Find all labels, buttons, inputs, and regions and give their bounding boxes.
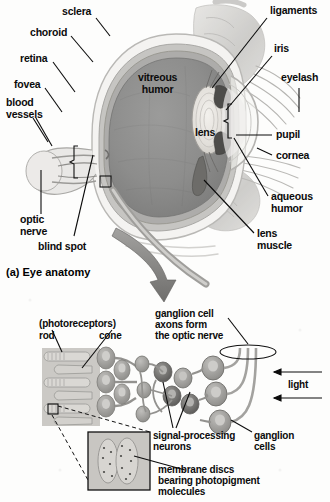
signal-processing-neuron bbox=[181, 394, 199, 414]
signal-processing-neuron bbox=[136, 406, 150, 422]
label-ganglion-axons: ganglion cell axons form the optic nerve bbox=[155, 308, 223, 341]
label-aqueous-humor: aqueous humor bbox=[271, 191, 313, 214]
leader-choroid bbox=[71, 36, 93, 62]
leader-retina bbox=[53, 62, 75, 92]
signal-processing-neuron bbox=[135, 356, 149, 372]
leader-cornea bbox=[257, 148, 272, 155]
ganglion-cell bbox=[202, 356, 224, 380]
rod-cell bbox=[44, 378, 90, 387]
label-ganglion-cells: ganglion cells bbox=[254, 430, 294, 452]
label-signal-processing: signal-processing neurons bbox=[153, 430, 235, 452]
leader-fovea bbox=[45, 88, 62, 112]
ganglion-cell bbox=[205, 382, 227, 406]
signal-processing-neuron bbox=[174, 368, 192, 388]
bipolar-cells-group bbox=[97, 347, 137, 417]
label-photoreceptors: (photoreceptors) bbox=[39, 318, 116, 329]
caption-eye-anatomy: (a) Eye anatomy bbox=[6, 266, 90, 278]
label-fovea: fovea bbox=[14, 79, 40, 91]
label-membrane-discs: membrane discs bearing photopigment mole… bbox=[158, 464, 260, 497]
label-blood-vessels: blood vessels bbox=[6, 97, 43, 120]
label-blind-spot: blind spot bbox=[38, 241, 86, 253]
label-vitreous-humor: vitreous humor bbox=[138, 72, 177, 95]
bipolar-cell bbox=[114, 360, 130, 380]
label-eyelash: eyelash bbox=[281, 72, 318, 84]
cone-cell bbox=[54, 417, 92, 425]
label-rod: rod bbox=[39, 330, 55, 341]
leader-ganglion-axons bbox=[228, 318, 248, 344]
label-pupil: pupil bbox=[276, 129, 300, 141]
label-optic-nerve: optic nerve bbox=[20, 214, 47, 237]
cone-cell bbox=[54, 391, 92, 400]
leader-bloodvessels-1 bbox=[33, 118, 48, 142]
label-ligaments: ligaments bbox=[270, 5, 317, 17]
leader-bloodvessels-2 bbox=[36, 118, 52, 146]
label-light: light bbox=[288, 379, 308, 390]
label-retina: retina bbox=[20, 53, 47, 65]
leader-sclera bbox=[96, 18, 110, 36]
label-cone: cone bbox=[99, 330, 122, 341]
label-lens-muscle: lens muscle bbox=[257, 228, 292, 251]
bipolar-cell bbox=[114, 384, 130, 404]
label-cornea: cornea bbox=[276, 150, 309, 162]
label-sclera: sclera bbox=[62, 6, 91, 18]
rod-cell bbox=[44, 352, 90, 361]
label-lens: lens bbox=[195, 127, 215, 139]
signal-processing-neuron bbox=[137, 382, 151, 398]
optic-nerve-group bbox=[26, 148, 97, 195]
label-choroid: choroid bbox=[30, 27, 67, 39]
signal-processing-neurons-group bbox=[135, 356, 199, 422]
cone-cell bbox=[54, 365, 92, 374]
label-iris: iris bbox=[274, 43, 289, 55]
